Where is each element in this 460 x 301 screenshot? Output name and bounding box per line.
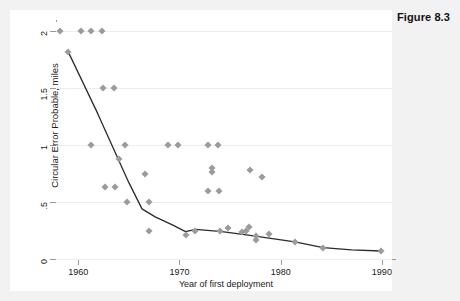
x-tick-mark	[382, 260, 383, 265]
x-tick-mark	[179, 260, 180, 265]
x-tick-label: 1990	[372, 267, 392, 277]
chart-frame: 0.511.52 1960197019801990 Year of first …	[10, 10, 392, 291]
plot-area	[56, 22, 392, 259]
x-axis-title: Year of first deployment	[56, 279, 396, 289]
x-tick-label: 1980	[271, 267, 291, 277]
y-tick-label: .5	[39, 202, 49, 226]
y-tick-label: 0	[39, 259, 49, 283]
gridline	[56, 259, 392, 260]
x-tick-mark	[78, 260, 79, 265]
y-tick-label: 2	[39, 31, 49, 55]
x-tick-mark	[281, 260, 282, 265]
x-tick-label: 1960	[68, 267, 88, 277]
figure-caption: Figure 8.3	[397, 11, 450, 23]
y-tick-label: 1.5	[39, 88, 49, 112]
figure-page: Figure 8.3 0.511.52 1960197019801990 Yea…	[0, 0, 460, 301]
y-axis-title: Circular Error Probable, miles	[49, 36, 60, 216]
y-tick-label: 1	[39, 145, 49, 169]
x-tick-label: 1970	[169, 267, 189, 277]
trend-line	[56, 22, 392, 259]
